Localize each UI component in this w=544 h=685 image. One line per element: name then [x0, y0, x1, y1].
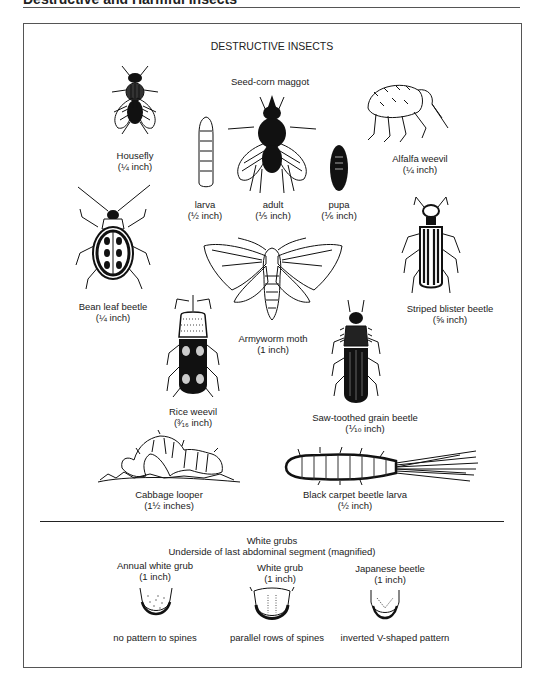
grub-annual-pattern: no pattern to spines	[95, 632, 215, 643]
cabbage-looper-illustration	[94, 432, 244, 488]
saw-toothed-grain-beetle-label: Saw-toothed grain beetle (⅒ inch)	[300, 412, 430, 434]
rice-weevil-illustration	[163, 293, 223, 403]
seed-corn-maggot-title: Seed-corn maggot	[200, 76, 340, 87]
grub-annual-label: Annual white grub (1 inch)	[105, 560, 205, 582]
maggot-adult-label: adult (⅕ inch)	[248, 199, 298, 221]
maggot-pupa-illustration	[328, 143, 350, 193]
header-rule	[23, 7, 520, 8]
rice-weevil-label: Rice weevil (³⁄₁₆ inch)	[163, 406, 223, 428]
striped-blister-beetle-illustration	[396, 193, 466, 297]
maggot-larva-illustration	[196, 115, 216, 190]
housefly-label: Housefly (¼ inch)	[105, 150, 165, 172]
grub-white-label: White grub (1 inch)	[230, 562, 330, 584]
alfalfa-weevil-label: Alfalfa weevil (¼ inch)	[380, 153, 460, 175]
striped-blister-beetle-label: Striped blister beetle (⅝ inch)	[395, 303, 505, 325]
white-grubs-heading: White grubs Underside of last abdominal …	[0, 535, 544, 557]
bean-leaf-beetle-label: Bean leaf beetle (¼ inch)	[68, 301, 158, 323]
housefly-illustration	[100, 62, 170, 142]
annual-white-grub-segment-illustration	[136, 586, 176, 622]
page-header-title: Destructive and Harmful Insects	[23, 0, 237, 7]
white-grub-segment-illustration	[248, 587, 296, 625]
black-carpet-beetle-larva-illustration	[280, 449, 480, 485]
grub-japanese-pattern: inverted V-shaped pattern	[330, 632, 460, 643]
alfalfa-weevil-illustration	[362, 78, 452, 148]
grub-white-pattern: parallel rows of spines	[212, 632, 342, 643]
maggot-larva-label: larva (½ inch)	[180, 199, 230, 221]
maggot-pupa-label: pupa (⅙ inch)	[314, 199, 364, 221]
figure-title: DESTRUCTIVE INSECTS	[0, 40, 544, 52]
armyworm-moth-label: Armyworm moth (1 inch)	[228, 333, 318, 355]
cabbage-looper-label: Cabbage looper (1½ inches)	[124, 489, 214, 511]
japanese-beetle-segment-illustration	[365, 588, 405, 626]
armyworm-moth-illustration	[202, 236, 344, 322]
section-divider	[40, 521, 504, 522]
bean-leaf-beetle-illustration	[68, 183, 158, 293]
grub-japanese-label: Japanese beetle (1 inch)	[335, 563, 445, 585]
black-carpet-beetle-larva-label: Black carpet beetle larva (½ inch)	[290, 489, 420, 511]
saw-toothed-grain-beetle-illustration	[328, 298, 384, 408]
maggot-adult-illustration	[222, 93, 322, 198]
